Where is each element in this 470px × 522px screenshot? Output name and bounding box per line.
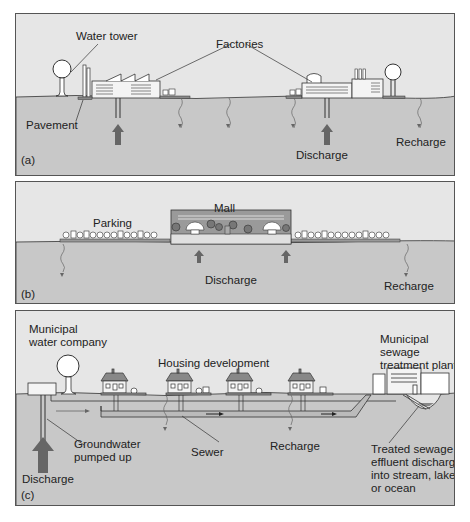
parking-lot-right	[290, 239, 400, 242]
label-parking: Parking	[93, 217, 132, 230]
label-sewage-plant: Municipalsewagetreatment plant	[380, 333, 455, 372]
label-discharge: Discharge	[205, 274, 257, 287]
label-water-tower: Water tower	[76, 30, 138, 43]
panel-tag-a: (a)	[21, 154, 35, 166]
panel-a-industrial: Water tower Factories Pavement Discharge…	[15, 13, 455, 176]
label-discharge: Discharge	[296, 149, 348, 162]
parking-lot-left	[60, 239, 170, 242]
panel-tag-b: (b)	[21, 288, 35, 300]
water-company-building	[28, 383, 56, 395]
label-groundwater: Groundwaterpumped up	[74, 438, 140, 464]
mall-building-icon	[171, 210, 291, 244]
label-recharge: Recharge	[270, 440, 320, 453]
panel-b-mall: Mall Parking Discharge Recharge (b)	[15, 181, 455, 304]
label-mall: Mall	[214, 202, 235, 215]
panel-tag-c: (c)	[21, 489, 34, 501]
label-recharge: Recharge	[384, 280, 434, 293]
label-factories: Factories	[216, 38, 263, 51]
label-housing: Housing development	[158, 357, 269, 370]
label-sewer: Sewer	[191, 446, 224, 459]
label-discharge: Discharge	[22, 473, 74, 486]
label-recharge: Recharge	[396, 136, 446, 149]
label-pavement: Pavement	[26, 119, 78, 132]
panel-c-housing: Municipalwater company Housing developme…	[15, 310, 455, 506]
label-effluent: Treated sewageeffluent dischargedinto st…	[371, 443, 455, 495]
label-water-company: Municipalwater company	[29, 323, 107, 349]
